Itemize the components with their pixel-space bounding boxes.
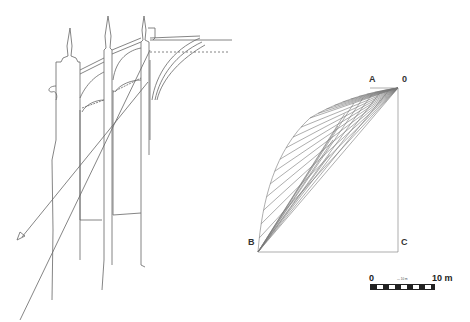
- thrust-arrow: [17, 82, 148, 240]
- scale-start: 0: [369, 273, 374, 283]
- scale-small-text: — 10 m: [397, 277, 408, 281]
- label-b: B: [248, 237, 255, 247]
- label-a: A: [369, 74, 376, 84]
- cathedral-diagram: [0, 0, 470, 322]
- label-c: C: [401, 237, 408, 247]
- label-origin: 0: [402, 74, 407, 84]
- scale-bar: [370, 284, 435, 290]
- force-polygon: [258, 88, 398, 252]
- cathedral-section: [20, 16, 232, 320]
- scale-end: 10 m: [432, 273, 453, 283]
